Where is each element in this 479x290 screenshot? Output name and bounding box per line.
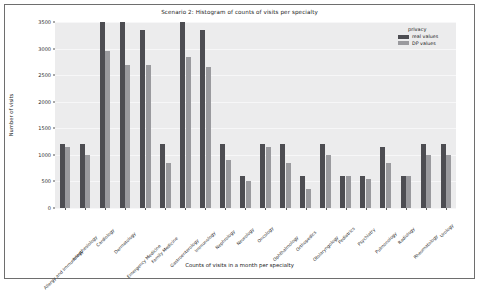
bars-layer [55,22,456,208]
bar-real [401,176,406,208]
x-tick-label: Nephrology [215,229,236,250]
bar-real [200,30,205,208]
x-tick-slot: Pulmonology [376,208,396,258]
bar-dp [346,176,351,208]
bar-group [75,22,95,208]
bar-dp [85,155,90,208]
x-tick-slot: Allergy and Immunology [55,208,75,258]
bar-real [160,144,165,208]
bar-group [215,22,235,208]
bar-dp [266,147,271,208]
x-tick-label: Rheumatology [413,234,439,260]
legend-label: DP values [412,41,436,46]
bar-real [80,144,85,208]
x-tick-slot: Emergency Medicine [135,208,155,258]
x-tick-label: Psychiatry [356,227,376,247]
bar-real [60,144,65,208]
legend-swatch [398,41,409,45]
x-tick-label: Urology [439,223,454,238]
x-tick-slot: Anesthesiology [75,208,95,258]
bar-dp [166,163,171,208]
bar-group [95,22,115,208]
bar-group [296,22,316,208]
x-axis-label: Counts of visits in a month per specialt… [0,262,479,268]
bar-real [300,176,305,208]
x-tick-slot: Dermatology [115,208,135,258]
x-tick-label: Radiology [397,226,416,245]
x-tick-slot: Orthopedics [296,208,316,258]
y-tick-label: 3500 [38,19,51,25]
bar-group [55,22,75,208]
x-tick-mark [265,208,266,210]
legend-label: real values [412,34,438,39]
bar-real [120,22,125,208]
bar-dp [226,160,231,208]
bar-real [441,144,446,208]
x-tick-slot: Nephrology [215,208,235,258]
bar-dp [426,155,431,208]
x-tick-label: Oncology [257,226,275,244]
bar-real [380,147,385,208]
x-tick-slot: Ophthalmology [276,208,296,258]
bar-group [255,22,275,208]
x-tick-mark [125,208,126,210]
x-tick-label: Pediatrics [337,226,356,245]
y-axis: Number of visits 05001000150020002500300… [0,22,55,208]
y-tick-label: 0 [48,205,51,211]
x-tick-mark [225,208,226,210]
x-tick-mark [366,208,367,210]
y-tick-label: 2000 [38,99,51,105]
bar-real [140,30,145,208]
x-tick-slot: Gastroenterology [175,208,195,258]
y-tick-label: 1000 [38,152,51,158]
x-tick-mark [65,208,66,210]
x-tick-label: Orthopedics [295,230,317,252]
x-tick-label: Immunology [194,230,217,253]
bar-dp [65,147,70,208]
bar-group [416,22,436,208]
bar-group [235,22,255,208]
bar-dp [446,155,451,208]
bar-real [280,144,285,208]
bar-real [100,22,105,208]
x-tick-mark [205,208,206,210]
x-tick-label: Pulmonology [374,231,398,255]
bar-real [260,144,265,208]
bar-group [396,22,416,208]
bar-real [240,176,245,208]
x-tick-label: Dermatology [113,231,137,255]
bar-real [421,144,426,208]
bar-dp [386,163,391,208]
legend-title: privacy [408,26,468,32]
bar-group [155,22,175,208]
bar-group [135,22,155,208]
bar-dp [146,65,151,208]
x-tick-label: Neurology [236,227,255,246]
bar-dp [306,189,311,208]
bar-dp [186,57,191,208]
x-tick-mark [426,208,427,210]
x-tick-label: Cardiology [95,228,115,248]
legend-swatch [398,35,409,39]
x-tick-mark [406,208,407,210]
bar-dp [326,155,331,208]
bar-group [115,22,135,208]
bar-group [376,22,396,208]
bar-real [360,176,365,208]
y-tick-label: 3000 [38,46,51,52]
x-tick-slot: Radiology [396,208,416,258]
x-tick-mark [185,208,186,210]
plot-area [55,22,456,208]
x-axis-tick-labels: Allergy and ImmunologyAnesthesiologyCard… [55,208,456,258]
x-tick-mark [346,208,347,210]
x-tick-slot: Oncology [255,208,275,258]
x-tick-slot: Psychiatry [356,208,376,258]
bar-group [195,22,215,208]
y-tick-label: 500 [41,178,51,184]
x-tick-mark [386,208,387,210]
x-tick-slot: Urology [436,208,456,258]
bar-group [175,22,195,208]
x-tick-slot: Pediatrics [336,208,356,258]
x-tick-mark [85,208,86,210]
